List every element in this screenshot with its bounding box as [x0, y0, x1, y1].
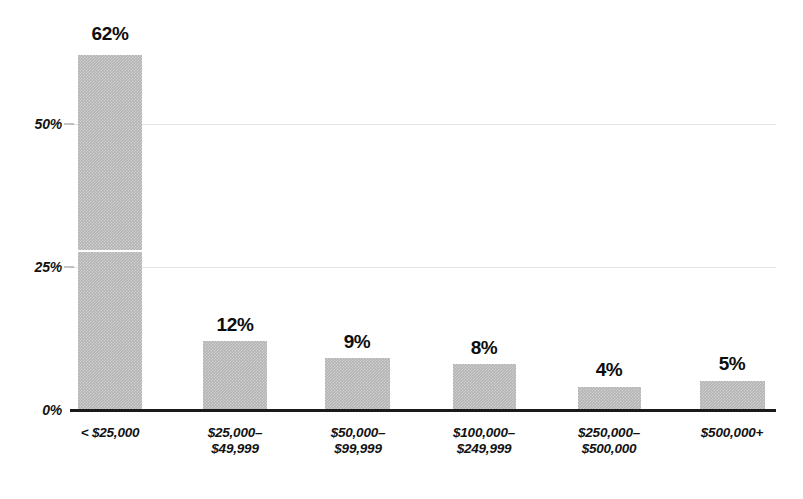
- value-label-5: 5%: [692, 354, 772, 373]
- value-label-4: 4%: [569, 360, 649, 379]
- bar-1: [203, 341, 267, 410]
- value-label-0: 62%: [70, 24, 150, 43]
- x-axis-category-label-4: $250,000– $500,000: [548, 425, 670, 458]
- bar-2: [325, 358, 390, 410]
- value-label-1: 12%: [195, 315, 275, 334]
- gridline-25: [70, 267, 776, 268]
- bar-gridline-overlay-25: [78, 250, 142, 252]
- y-axis-tick-label-50: 50%: [6, 117, 62, 131]
- bar-3: [453, 364, 516, 410]
- y-axis-tick-label-25: 25%: [6, 260, 62, 274]
- value-label-2: 9%: [317, 332, 397, 351]
- bar-chart: 50% 25% 0% 62% 12% 9% 8% 4% 5% < $25,000…: [0, 0, 803, 499]
- x-axis-category-label-3: $100,000– $249,999: [423, 425, 545, 458]
- bar-0: [78, 55, 142, 410]
- y-axis-tick-label-0: 0%: [6, 403, 62, 417]
- x-axis-category-label-1: $25,000– $49,999: [174, 425, 296, 458]
- bar-4: [578, 387, 641, 410]
- y-axis-tick-mark-50: [64, 124, 74, 125]
- x-axis-category-label-2: $50,000– $99,999: [297, 425, 419, 458]
- y-axis-tick-mark-25: [64, 267, 74, 268]
- x-axis-category-label-0: < $25,000: [49, 425, 171, 441]
- bar-5: [700, 381, 765, 410]
- gridline-50: [70, 124, 776, 125]
- x-axis-line: [70, 409, 776, 412]
- x-axis-category-label-5: $500,000+: [671, 425, 793, 441]
- value-label-3: 8%: [444, 338, 524, 357]
